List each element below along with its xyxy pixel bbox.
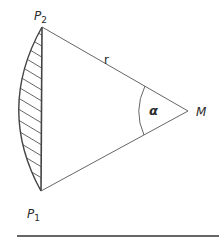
- label-p1: P1: [27, 207, 40, 223]
- chord-p1-p2: [41, 27, 42, 191]
- radius-p1-m: [41, 111, 188, 191]
- label-m: M: [196, 105, 207, 119]
- label-p2: P2: [34, 9, 47, 25]
- label-radius: r: [104, 53, 109, 67]
- radius-p2-m: [42, 27, 188, 111]
- circular-segment-diagram: P2 P1 M r α: [0, 0, 219, 244]
- angle-arc: [139, 86, 145, 135]
- segment-arc: [19, 27, 42, 191]
- label-angle: α: [149, 103, 158, 118]
